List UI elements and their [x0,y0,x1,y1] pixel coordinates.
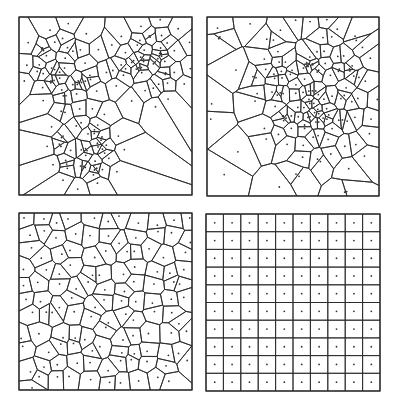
seed-point [301,364,303,366]
voronoi-cell [177,287,192,312]
seed-point [97,182,99,184]
seed-point [177,28,179,30]
seed-point [351,65,353,67]
voronoi-cell [125,274,145,292]
seed-point [249,310,251,312]
seed-point [344,191,346,193]
seed-point [303,107,305,109]
seed-point [353,328,355,330]
seed-point [326,19,328,21]
seed-point [90,379,92,381]
seed-point [318,364,320,366]
seed-point [249,240,251,242]
voronoi-cell [271,56,282,67]
voronoi-cell [110,56,126,71]
voronoi-cell [160,289,178,306]
seed-point [349,68,351,70]
voronoi-cell [156,358,179,374]
seed-point [106,72,108,74]
seed-point [60,146,62,148]
seed-point [79,108,81,110]
seed-point [357,98,359,100]
seed-point [271,91,273,93]
voronoi-cell [77,152,93,161]
seed-point [295,92,297,94]
seed-point [266,38,268,40]
seed-point [210,118,212,120]
seed-point [301,310,303,312]
seed-point [159,19,161,21]
voronoi-cell [283,17,304,40]
seed-point [91,350,93,352]
voronoi-cell [51,323,70,343]
voronoi-cell [19,154,60,195]
seed-point [104,152,106,154]
voronoi-diagram [205,213,381,392]
seed-point [23,268,25,270]
seed-point [165,72,167,74]
seed-point [249,257,251,259]
voronoi-cell [125,57,135,67]
seed-point [353,75,355,77]
voronoi-cell [289,89,300,102]
seed-point [125,52,127,54]
voronoi-panel-single-cluster: Single dense cluster with graded sparse … [206,16,380,197]
seed-point [77,188,79,190]
seed-point [309,21,311,23]
seed-point [105,250,107,252]
seed-point [189,242,191,244]
voronoi-cell [245,23,272,49]
seed-point [118,215,120,217]
seed-point [311,90,313,92]
seed-point [170,298,172,300]
seed-point [152,87,154,89]
voronoi-cell [331,157,372,183]
seed-point [124,291,126,293]
voronoi-cell [78,371,101,390]
voronoi-cell [77,272,97,295]
seed-point [101,136,103,138]
voronoi-cell [19,53,33,73]
seed-point [249,381,251,383]
seed-point [231,381,233,383]
seed-point [138,380,140,382]
seed-point [309,56,311,58]
voronoi-cell [313,86,326,100]
voronoi-cell [19,17,39,54]
seed-point [46,55,48,57]
seed-point [122,339,124,341]
seed-point [22,345,24,347]
seed-point [318,346,320,348]
voronoi-cell [255,63,273,78]
voronoi-cell [318,17,339,29]
seed-point [336,257,338,259]
seed-point [327,138,329,140]
seed-point [279,92,281,94]
seed-point [186,360,188,362]
seed-point [256,93,258,95]
voronoi-cell [340,43,355,64]
seed-point [231,222,233,224]
voronoi-cell [180,55,192,78]
seed-point [120,382,122,384]
seed-point [345,87,347,89]
seed-point [289,73,291,75]
voronoi-cell [283,122,297,138]
seed-point [131,62,133,64]
seed-point [369,57,371,59]
voronoi-cell [310,69,323,82]
voronoi-cell [173,243,192,262]
seed-point [307,117,309,119]
seed-point [153,283,155,285]
seed-point [318,275,320,277]
seed-point [38,64,40,66]
seed-point [141,72,143,74]
seed-point [49,29,51,31]
seed-point [32,311,34,313]
seed-point [362,47,364,49]
voronoi-cell [233,17,268,47]
seed-point [67,218,69,220]
seed-point [148,333,150,335]
voronoi-cell [65,75,75,91]
seed-point [125,68,127,70]
